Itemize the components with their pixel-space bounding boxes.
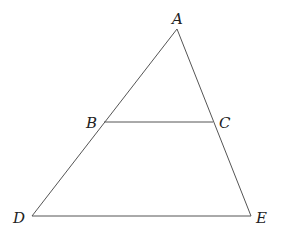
label-B: B (85, 114, 97, 132)
triangle-diagram: A B C D E (0, 0, 283, 233)
label-E: E (255, 209, 267, 227)
label-C: C (219, 114, 231, 132)
label-D: D (12, 209, 25, 227)
label-A: A (170, 10, 183, 28)
